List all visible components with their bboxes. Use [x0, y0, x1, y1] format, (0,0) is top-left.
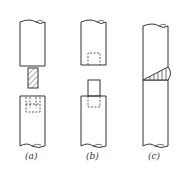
panel-c-weld	[143, 67, 171, 80]
panel-c-rod	[143, 24, 168, 148]
panel-b-label: (b)	[86, 151, 99, 161]
panel-a-bottom-rod	[20, 96, 45, 148]
panel-b-tenon	[88, 80, 100, 96]
panel-a-label: (a)	[25, 151, 37, 161]
panel-b-top-rod	[81, 20, 106, 65]
joint-diagram	[0, 0, 180, 176]
panel-a-top-rod	[20, 20, 45, 66]
panel-c-label: (c)	[148, 151, 160, 161]
panel-a-pin	[28, 68, 38, 88]
panel-b-bottom-rod	[81, 96, 106, 148]
